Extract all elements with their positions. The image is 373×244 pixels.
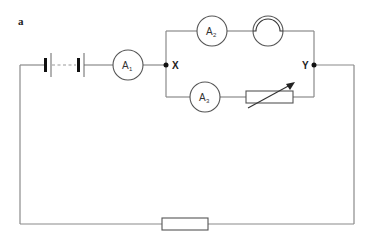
- ammeter-a2: A 2: [197, 16, 227, 46]
- filament-lamp: [253, 16, 283, 46]
- variable-resistor-body-icon: [246, 91, 293, 103]
- panel-label: a: [18, 15, 24, 27]
- lamp-bulb-icon: [253, 16, 283, 46]
- circuit-diagram: a A: [0, 0, 373, 244]
- battery-plate-negative-1: [44, 58, 47, 72]
- variable-resistor-arrowhead-icon: [286, 82, 295, 90]
- fixed-resistor-icon: [162, 218, 208, 230]
- ammeter-a1: A 1: [113, 50, 143, 80]
- junction-y-label: Y: [302, 60, 309, 71]
- junction-x-label: X: [172, 60, 179, 71]
- ammeter-a1-label: A: [122, 60, 129, 71]
- battery-symbol: [44, 53, 84, 77]
- ammeter-a3: A 3: [190, 82, 220, 112]
- ammeter-a2-label: A: [206, 26, 213, 37]
- junction-x-node: [164, 63, 169, 68]
- variable-resistor: [246, 82, 295, 108]
- junction-y-node: [312, 63, 317, 68]
- ammeter-a3-label: A: [199, 92, 206, 103]
- battery-plate-negative-2: [77, 58, 80, 72]
